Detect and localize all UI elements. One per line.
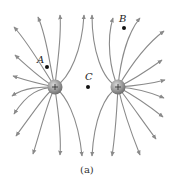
charge-right [111, 80, 126, 95]
point-a-dot [45, 65, 49, 69]
field-lines-right [92, 15, 165, 156]
point-b-dot [122, 26, 126, 30]
field-diagram [0, 0, 182, 183]
figure-caption: (a) [80, 165, 94, 175]
point-c-dot [86, 85, 90, 89]
charge-left [48, 80, 63, 95]
point-c-label: C [85, 72, 93, 82]
point-b-label: B [119, 14, 126, 24]
point-a-label: A [37, 55, 44, 65]
